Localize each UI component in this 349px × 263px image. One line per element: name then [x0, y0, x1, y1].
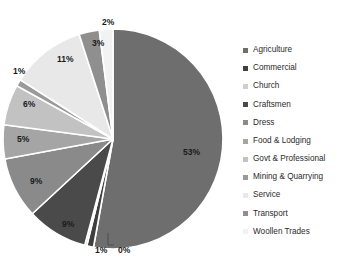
slice-label-govt-professional: 6%	[23, 100, 35, 109]
legend-item-label: Woollen Trades	[253, 228, 310, 236]
slice-label-woollen-trades: 2%	[102, 18, 114, 27]
legend-item-label: Food & Lodging	[253, 137, 311, 145]
chart-legend: AgricultureCommercialChurchCraftsmenDres…	[243, 41, 349, 241]
legend-item-transport[interactable]: Transport	[243, 205, 349, 223]
legend-item-church[interactable]: Church	[243, 77, 349, 95]
pie-chart-plot-area: 53% 1% 0% 9% 9% 5% 6% 1% 11% 3% 2%	[0, 0, 240, 263]
legend-swatch-icon-govt-and-professional	[243, 157, 248, 162]
legend-swatch-icon-church	[243, 84, 248, 89]
legend-item-govt-and-professional[interactable]: Govt & Professional	[243, 150, 349, 168]
legend-item-label: Transport	[253, 210, 288, 218]
legend-item-woollen-trades[interactable]: Woollen Trades	[243, 223, 349, 241]
legend-swatch-icon-agriculture	[243, 48, 248, 53]
legend-item-label: Govt & Professional	[253, 155, 325, 163]
legend-item-label: Church	[253, 82, 279, 90]
legend-item-label: Mining & Quarrying	[253, 173, 323, 181]
legend-item-dress[interactable]: Dress	[243, 114, 349, 132]
legend-swatch-icon-commercial	[243, 66, 248, 71]
legend-swatch-icon-service	[243, 193, 248, 198]
legend-item-agriculture[interactable]: Agriculture	[243, 41, 349, 59]
slice-label-agriculture: 53%	[183, 148, 200, 157]
legend-swatch-icon-craftsmen	[243, 102, 248, 107]
pie-chart-screenshot: 53% 1% 0% 9% 9% 5% 6% 1% 11% 3% 2% Agric…	[0, 0, 349, 263]
legend-swatch-icon-transport	[243, 211, 248, 216]
legend-item-service[interactable]: Service	[243, 187, 349, 205]
slice-label-dress: 9%	[30, 177, 42, 186]
legend-item-label: Agriculture	[253, 46, 292, 54]
legend-item-label: Dress	[253, 119, 274, 127]
legend-item-label: Craftsmen	[253, 101, 291, 109]
slice-label-service: 11%	[57, 55, 74, 64]
slice-label-church: 0%	[118, 246, 130, 255]
legend-swatch-icon-woollen-trades	[243, 229, 248, 234]
legend-item-food-and-lodging[interactable]: Food & Lodging	[243, 132, 349, 150]
pie-slice-group	[3, 29, 223, 249]
pie-chart-svg	[0, 0, 240, 263]
slice-label-commercial: 1%	[95, 246, 107, 255]
legend-swatch-icon-mining-and-quarrying	[243, 175, 248, 180]
legend-swatch-icon-dress	[243, 120, 248, 125]
slice-label-craftsmen: 9%	[62, 220, 74, 229]
slice-label-mining-quarrying: 1%	[13, 67, 25, 76]
legend-swatch-icon-food-and-lodging	[243, 139, 248, 144]
legend-item-mining-and-quarrying[interactable]: Mining & Quarrying	[243, 168, 349, 186]
legend-item-craftsmen[interactable]: Craftsmen	[243, 96, 349, 114]
legend-item-label: Service	[253, 191, 280, 199]
legend-item-label: Commercial	[253, 64, 297, 72]
slice-label-transport: 3%	[92, 39, 104, 48]
slice-label-food-lodging: 5%	[17, 135, 29, 144]
legend-item-commercial[interactable]: Commercial	[243, 59, 349, 77]
